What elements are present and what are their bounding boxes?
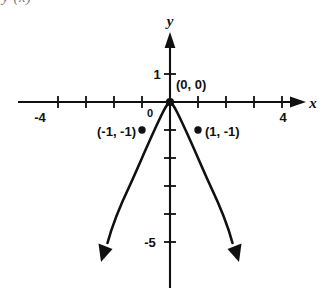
vertex-annotation: (0, 0) xyxy=(176,77,206,92)
origin-zero-label: 0 xyxy=(147,107,153,119)
y-tick-label-1: 1 xyxy=(153,67,160,82)
y-axis-label: y xyxy=(165,13,174,29)
x-tick-label-minus-4: -4 xyxy=(34,110,46,125)
x-tick-label-4: 4 xyxy=(279,110,287,125)
point-left xyxy=(138,126,145,133)
graph-screenshot: y (x) xyxy=(0,0,334,291)
left-point-annotation: (-1, -1) xyxy=(97,124,136,139)
parabola-plot: x y -4 4 1 -5 0 (0, 0) (-1, -1) (1, -1) xyxy=(0,0,334,291)
point-vertex xyxy=(166,98,174,106)
y-axis xyxy=(165,32,176,288)
x-axis-label: x xyxy=(308,95,317,111)
y-tick-label-minus-5: -5 xyxy=(144,235,156,250)
x-axis xyxy=(18,97,306,108)
right-point-annotation: (1, -1) xyxy=(205,124,240,139)
point-right xyxy=(194,126,201,133)
